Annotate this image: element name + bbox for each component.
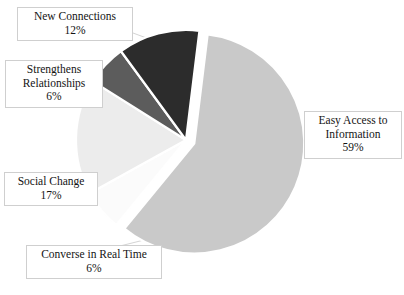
callout-label-converse: Converse in Real Time [32,248,156,262]
callout-label-strengthens-line2: Relationships [11,77,97,91]
callout-easy-access-to-information[interactable]: Easy Access to Information 59% [304,111,402,159]
callout-label-social-change: Social Change [10,175,92,189]
callout-social-change[interactable]: Social Change 17% [4,172,98,206]
callout-label-easy-access-line2: Information [310,128,396,142]
callout-label-strengthens-line1: Strengthens [11,63,97,77]
pie-slices [76,30,304,254]
callout-percent-social-change: 17% [10,189,92,203]
callout-converse-in-real-time[interactable]: Converse in Real Time 6% [26,245,162,279]
callout-label-new-connections: New Connections [23,10,127,24]
callout-strengthens-relationships[interactable]: Strengthens Relationships 6% [5,60,103,108]
callout-percent-strengthens: 6% [11,90,97,104]
callout-percent-converse: 6% [32,262,156,276]
callout-percent-easy-access: 59% [310,141,396,155]
callout-label-easy-access-line1: Easy Access to [310,114,396,128]
pie-chart: New Connections 12% Strengthens Relation… [0,0,404,295]
callout-percent-new-connections: 12% [23,24,127,38]
callout-new-connections[interactable]: New Connections 12% [17,7,133,41]
